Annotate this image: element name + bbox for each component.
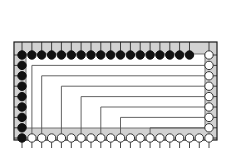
pad-top[interactable] <box>175 51 183 59</box>
pad-right[interactable] <box>205 124 213 132</box>
pad-bottom[interactable] <box>185 134 193 142</box>
pad-top[interactable] <box>77 51 85 59</box>
pad-left[interactable] <box>18 82 26 90</box>
pad-bottom[interactable] <box>116 134 124 142</box>
pad-top[interactable] <box>185 51 193 59</box>
pad-top[interactable] <box>136 51 144 59</box>
pad-bottom[interactable] <box>97 134 105 142</box>
pad-right[interactable] <box>205 113 213 121</box>
pad-bottom[interactable] <box>57 134 65 142</box>
pad-left[interactable] <box>18 72 26 80</box>
figure-canvas <box>0 0 235 159</box>
pad-top[interactable] <box>146 51 154 59</box>
pad-top[interactable] <box>47 51 55 59</box>
pad-bottom[interactable] <box>67 134 75 142</box>
pad-top[interactable] <box>97 51 105 59</box>
pad-bottom[interactable] <box>146 134 154 142</box>
pad-right[interactable] <box>205 61 213 69</box>
pad-right[interactable] <box>205 134 213 142</box>
pad-top[interactable] <box>156 51 164 59</box>
pad-right[interactable] <box>205 103 213 111</box>
pad-top[interactable] <box>116 51 124 59</box>
pad-top[interactable] <box>38 51 46 59</box>
pad-right[interactable] <box>205 92 213 100</box>
pad-bottom[interactable] <box>136 134 144 142</box>
pad-bottom[interactable] <box>87 134 95 142</box>
pad-bottom[interactable] <box>47 134 55 142</box>
pad-top[interactable] <box>166 51 174 59</box>
pad-left[interactable] <box>18 124 26 132</box>
pad-bottom[interactable] <box>126 134 134 142</box>
pad-top[interactable] <box>28 51 36 59</box>
pad-top[interactable] <box>107 51 115 59</box>
pad-left[interactable] <box>18 103 26 111</box>
pad-bottom[interactable] <box>107 134 115 142</box>
pad-right[interactable] <box>205 72 213 80</box>
pad-bottom[interactable] <box>156 134 164 142</box>
pad-bottom[interactable] <box>195 134 203 142</box>
pad-bottom[interactable] <box>175 134 183 142</box>
package-pinout-diagram <box>0 0 235 159</box>
pad-top[interactable] <box>126 51 134 59</box>
pad-top[interactable] <box>18 51 26 59</box>
pad-left[interactable] <box>18 134 26 142</box>
pad-bottom[interactable] <box>77 134 85 142</box>
pad-left[interactable] <box>18 61 26 69</box>
pad-right[interactable] <box>205 82 213 90</box>
pad-top[interactable] <box>87 51 95 59</box>
pad-bottom[interactable] <box>28 134 36 142</box>
pad-top[interactable] <box>67 51 75 59</box>
pad-top[interactable] <box>57 51 65 59</box>
pad-bottom[interactable] <box>38 134 46 142</box>
pad-left[interactable] <box>18 113 26 121</box>
pad-left[interactable] <box>18 92 26 100</box>
pad-top[interactable] <box>205 51 213 59</box>
pad-bottom[interactable] <box>166 134 174 142</box>
